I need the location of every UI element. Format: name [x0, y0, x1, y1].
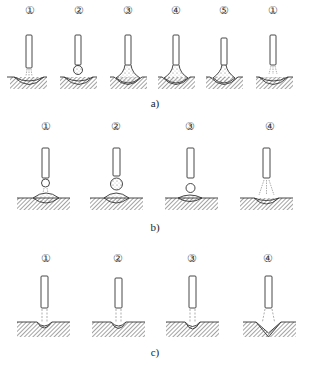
c-step3	[166, 276, 219, 337]
a-step2	[60, 35, 97, 89]
diagram-drawing	[0, 0, 309, 365]
b-step1	[17, 148, 70, 210]
c-step1	[17, 276, 70, 337]
a-step5	[206, 38, 243, 89]
c-step2	[92, 278, 145, 337]
a-step6	[256, 35, 293, 89]
b-step2	[90, 148, 143, 210]
a-step1	[7, 35, 47, 89]
a-step3	[110, 35, 147, 89]
a-step4	[158, 35, 195, 89]
b-step4	[240, 148, 293, 210]
b-step3	[165, 148, 218, 210]
c-step4	[243, 276, 296, 337]
